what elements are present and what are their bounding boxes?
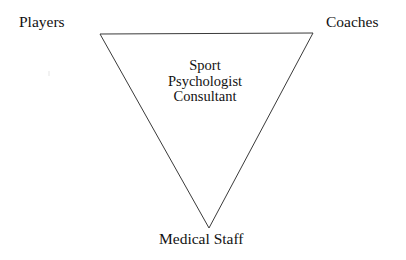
- background-artifact: [48, 71, 50, 76]
- corner-label-coaches: Coaches: [326, 14, 379, 31]
- diagram-canvas: Players Coaches Sport Psychologist Consu…: [0, 0, 406, 260]
- corner-label-medical-staff: Medical Staff: [159, 231, 244, 248]
- center-label-group: Sport Psychologist Consultant: [129, 58, 281, 105]
- center-label-line-3: Consultant: [129, 89, 281, 105]
- center-label-line-2: Psychologist: [129, 74, 281, 90]
- inverted-triangle-shape: [0, 0, 406, 260]
- corner-label-players: Players: [19, 14, 65, 31]
- center-label-line-1: Sport: [129, 58, 281, 74]
